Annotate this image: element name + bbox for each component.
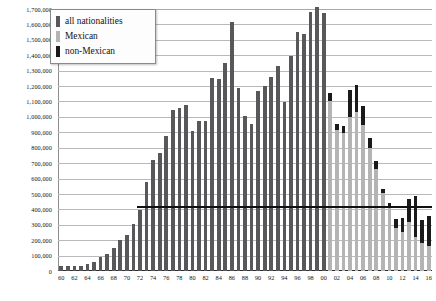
bar [309,12,313,271]
x-axis-tick-label: 84 [212,274,226,281]
y-axis-tick-label: 400,000 [0,206,52,213]
bar-segment-non-mexican [335,124,339,130]
gridline [58,71,432,72]
bar [197,121,201,271]
x-axis-tick-label: 10 [382,274,396,281]
legend-item-all-nationalities: all nationalities [56,14,150,29]
bar-segment-non-mexican [414,196,418,237]
x-axis-tick-label: 88 [238,274,252,281]
bar-segment-mexican [348,117,352,271]
bar-segment-all-nationalities [105,254,109,271]
bar [401,218,405,271]
bar [394,219,398,271]
bar-segment-all-nationalities [79,266,83,271]
bar-segment-all-nationalities [309,12,313,271]
bar-segment-all-nationalities [276,66,280,271]
bar-segment-mexican [427,246,431,271]
bar [289,56,293,271]
x-axis-tick-label: 90 [251,274,265,281]
bar-segment-mexican [374,169,378,271]
bar [178,108,182,271]
bar-segment-all-nationalities [197,121,201,271]
bar-segment-non-mexican [374,161,378,169]
bar-segment-all-nationalities [171,110,175,271]
x-axis-tick-label: 72 [133,274,147,281]
chart-root: 1,700,0001,600,0001,500,0001,400,0001,30… [0,0,436,301]
bar-segment-all-nationalities [230,22,234,271]
x-axis-tick-label: 76 [159,274,173,281]
y-axis-tick-label: 0 [0,268,52,275]
y-axis-tick-label: 500,000 [0,191,52,198]
bar-segment-all-nationalities [210,78,214,271]
bar [230,22,234,271]
bar [112,248,116,271]
bar-segment-all-nationalities [92,262,96,271]
gridline [58,86,432,87]
bar-segment-all-nationalities [112,248,116,271]
bar-segment-all-nationalities [263,86,267,271]
bar [118,240,122,271]
bar [250,124,254,271]
x-axis-tick-label: 00 [317,274,331,281]
bar-segment-non-mexican [328,93,332,101]
bar-segment-non-mexican [388,203,392,205]
bar-segment-mexican [328,101,332,271]
bar [322,13,326,271]
legend-swatch-non-mexican [56,46,60,57]
legend-label-mexican: Mexican [65,31,98,42]
x-axis-tick-label: 02 [330,274,344,281]
bar [191,131,195,271]
bar [158,153,162,271]
y-axis-tick-label: 800,000 [0,144,52,151]
bar-segment-non-mexican [348,90,352,117]
bar [296,32,300,271]
legend-item-mexican: Mexican [56,29,150,44]
y-axis-tick-label: 1,400,000 [0,52,52,59]
bar [217,79,221,271]
x-axis-tick-label: 78 [172,274,186,281]
bar-segment-all-nationalities [184,105,188,271]
bar-segment-all-nationalities [164,136,168,271]
bar-segment-all-nationalities [302,34,306,271]
x-axis-tick-label: 66 [94,274,108,281]
y-axis-tick-label: 600,000 [0,175,52,182]
x-axis-tick-label: 92 [264,274,278,281]
bar-segment-mexican [420,243,424,271]
y-axis-tick-label: 1,200,000 [0,83,52,90]
y-axis-tick-label: 700,000 [0,160,52,167]
bar [105,254,109,271]
x-axis-tick-label: 04 [343,274,357,281]
bar-segment-all-nationalities [158,153,162,271]
x-axis-tick-label: 08 [369,274,383,281]
bar [66,266,70,271]
bar [420,220,424,271]
legend-label-all-nationalities: all nationalities [65,16,123,27]
bar-segment-all-nationalities [125,235,129,271]
bar [269,77,273,271]
bar-segment-mexican [407,222,411,271]
bar-segment-all-nationalities [178,108,182,271]
legend-swatch-all-nationalities [56,16,60,27]
x-axis-tick-label: 74 [146,274,160,281]
bar-segment-all-nationalities [237,88,241,271]
bar-segment-all-nationalities [250,124,254,271]
bar-segment-all-nationalities [204,121,208,271]
y-axis-tick-label: 1,500,000 [0,36,52,43]
bar-segment-non-mexican [401,218,405,232]
y-axis-tick-label: 1,700,000 [0,6,52,13]
y-axis-tick-label: 1,300,000 [0,67,52,74]
x-axis-tick-label: 98 [304,274,318,281]
bar [164,136,168,271]
bar-segment-all-nationalities [243,116,247,271]
x-axis-tick-label: 12 [395,274,409,281]
bar [86,264,90,271]
bar [381,189,385,271]
bar [263,86,267,271]
bar-segment-all-nationalities [151,160,155,271]
bar [355,85,359,271]
x-axis-tick-label: 64 [81,274,95,281]
bar-segment-all-nationalities [315,7,319,271]
bar-segment-all-nationalities [223,63,227,271]
bar [79,266,83,271]
bar-segment-all-nationalities [73,266,77,271]
